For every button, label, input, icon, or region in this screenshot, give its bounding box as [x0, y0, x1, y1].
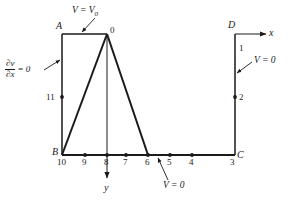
top-condition-leader: [82, 18, 95, 32]
corner-label-a: A: [56, 21, 62, 31]
left-condition-leader: [44, 60, 60, 70]
triangle-left-leg: [62, 34, 107, 155]
potential-boundary-value-figure: A B C D 0 x y V = V0 ∂v ∂x = 0 V = 0 V =…: [0, 0, 297, 208]
left-boundary-condition: ∂v ∂x = 0: [5, 59, 30, 80]
y-axis-label: y: [104, 183, 108, 193]
node-label-4: 4: [189, 158, 194, 167]
right-condition-leader: [237, 62, 252, 73]
corner-label-d: D: [228, 20, 235, 30]
triangle-right-leg: [107, 34, 148, 155]
corner-label-b: B: [52, 147, 58, 157]
node-label-8: 8: [104, 158, 109, 167]
partial-derivative-fraction: ∂v ∂x: [5, 59, 15, 80]
corner-label-c: C: [237, 150, 244, 160]
node-label-3: 3: [230, 158, 235, 167]
node-label-6: 6: [145, 158, 150, 167]
node-dot: [60, 95, 64, 99]
node-label-1: 1: [239, 44, 244, 53]
node-dot: [233, 95, 237, 99]
top-boundary-condition-text: V = V: [72, 5, 95, 15]
fraction-equals-zero: = 0: [17, 65, 30, 74]
figure-canvas: [0, 0, 297, 208]
fraction-numerator: ∂v: [5, 59, 15, 68]
x-axis-label: x: [269, 28, 273, 38]
node-label-7: 7: [123, 158, 128, 167]
top-boundary-condition: V = V0: [72, 6, 98, 18]
node-label-11: 11: [46, 93, 55, 102]
node-label-5: 5: [167, 158, 172, 167]
right-boundary-condition: V = 0: [254, 56, 276, 66]
apex-node-label: 0: [110, 26, 115, 35]
bottom-boundary-condition: V = 0: [163, 181, 185, 191]
node-label-10: 10: [57, 158, 66, 167]
node-label-2: 2: [239, 93, 244, 102]
top-boundary-condition-subscript: 0: [95, 10, 99, 18]
fraction-denominator: ∂x: [5, 70, 15, 79]
node-label-9: 9: [82, 158, 87, 167]
